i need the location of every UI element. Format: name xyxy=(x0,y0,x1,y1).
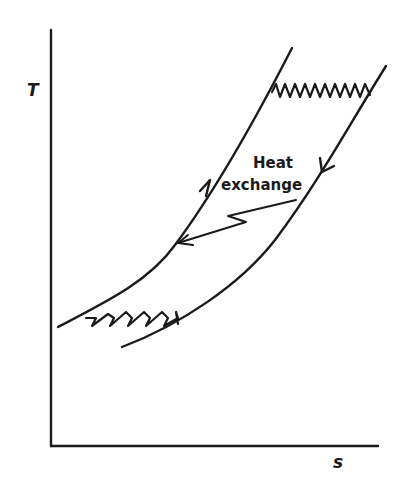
top-heat-addition-zigzag xyxy=(272,84,370,97)
up-arrow-icon xyxy=(200,180,210,196)
y-axis-label: T xyxy=(27,80,40,100)
ts-diagram: T s Heat exchange xyxy=(0,0,414,481)
annotation-heat: Heat xyxy=(253,154,293,172)
x-axis-label: s xyxy=(333,452,343,472)
annotation-exchange: exchange xyxy=(221,176,302,194)
bottom-heat-rejection-zigzag xyxy=(86,312,178,326)
right-process-curve xyxy=(122,66,386,347)
